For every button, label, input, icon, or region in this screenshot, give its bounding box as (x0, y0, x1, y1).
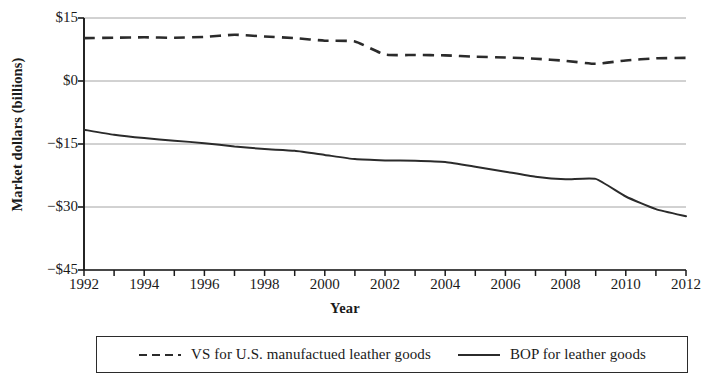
dashed-line-swatch-icon (138, 350, 182, 360)
plot-area (84, 18, 686, 270)
legend-label: BOP for leather goods (510, 346, 646, 363)
x-axis-title: Year (0, 300, 690, 317)
data-series (84, 35, 686, 216)
series-line-2 (84, 130, 686, 217)
legend-label: VS for U.S. manufactued leather goods (191, 346, 431, 363)
axis-tickmarks (78, 18, 686, 276)
solid-line-swatch-icon (457, 350, 501, 360)
series-line-1 (84, 35, 686, 64)
legend: VS for U.S. manufactued leather goodsBOP… (96, 336, 688, 373)
x-tick-label: 2012 (651, 277, 705, 292)
gridlines (84, 18, 686, 270)
legend-entry: BOP for leather goods (457, 346, 646, 363)
plot-canvas (84, 18, 686, 270)
legend-entry: VS for U.S. manufactued leather goods (138, 346, 431, 363)
